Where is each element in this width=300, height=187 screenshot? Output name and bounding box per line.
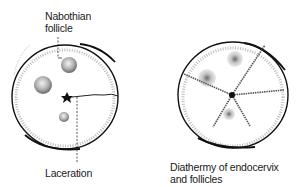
- left-cervix-lower-stroke: [25, 135, 80, 149]
- laceration-line: [72, 94, 118, 97]
- cervical-os: [229, 92, 235, 98]
- diathermy-follicle: [198, 69, 216, 87]
- label-diathermy: Diathermy of endocervix: [170, 161, 279, 173]
- left-cervix-outer-stroke: [80, 44, 115, 62]
- diathermy-follicle: [227, 51, 243, 67]
- nabothian-follicle: [34, 76, 52, 94]
- cervical-os-star: [61, 92, 73, 103]
- label-nabothian: Nabothian: [45, 10, 91, 22]
- left-cervix-figure: [12, 37, 118, 163]
- nabothian-follicle: [59, 112, 69, 122]
- diathermy-follicle: [223, 108, 235, 120]
- right-cervix-figure: [178, 42, 288, 148]
- nabothian-follicle: [61, 57, 77, 73]
- label-and-follicles: and follicles: [170, 173, 222, 185]
- label-follicle: follicle: [45, 22, 73, 34]
- label-laceration: Laceration: [45, 167, 92, 179]
